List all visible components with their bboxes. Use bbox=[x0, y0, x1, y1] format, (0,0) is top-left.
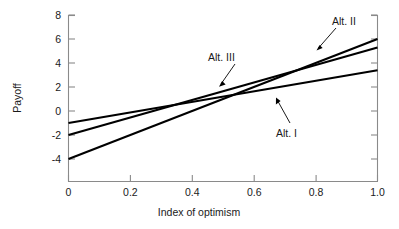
y-tick-label-neg2: -2 bbox=[52, 129, 61, 141]
x-tick-label-06: 0.6 bbox=[247, 186, 262, 198]
line-chart: 8 6 4 2 0 -2 -4 0 0.2 0.4 0.6 0.8 1.0 In… bbox=[0, 0, 399, 229]
y-tick-label-6: 6 bbox=[55, 33, 61, 45]
x-tick-label-10: 1.0 bbox=[370, 186, 385, 198]
x-tick-label-08: 0.8 bbox=[309, 186, 324, 198]
payoff-vs-optimism-figure: 8 6 4 2 0 -2 -4 0 0.2 0.4 0.6 0.8 1.0 In… bbox=[0, 0, 399, 229]
y-tick-label-2: 2 bbox=[55, 81, 61, 93]
x-tick-label-02: 0.2 bbox=[123, 186, 138, 198]
x-tick-label-0: 0 bbox=[66, 186, 72, 198]
annotation-alt-3-label: Alt. III bbox=[208, 51, 235, 63]
x-tick-label-04: 0.4 bbox=[185, 186, 200, 198]
annotation-alt-2-label: Alt. II bbox=[332, 15, 356, 27]
x-axis-title: Index of optimism bbox=[158, 206, 241, 218]
y-tick-label-8: 8 bbox=[55, 9, 61, 21]
y-tick-label-0: 0 bbox=[55, 105, 61, 117]
annotation-alt-1-label: Alt. I bbox=[276, 127, 297, 139]
y-axis-title: Payoff bbox=[11, 83, 23, 113]
y-tick-label-4: 4 bbox=[55, 57, 61, 69]
y-tick-label-neg4: -4 bbox=[52, 153, 61, 165]
